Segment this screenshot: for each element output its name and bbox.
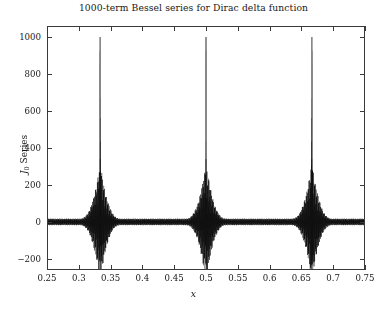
y-tick-right: [360, 74, 365, 75]
x-tick: [301, 265, 302, 270]
y-tick-right: [360, 111, 365, 112]
y-tick-right: [360, 185, 365, 186]
x-tick-top: [301, 26, 302, 31]
x-tick: [47, 265, 48, 270]
x-tick-top: [270, 26, 271, 31]
y-axis-title-symbol: J: [19, 170, 29, 174]
y-tick: [47, 259, 52, 260]
x-tick-top: [111, 26, 112, 31]
x-tick-top: [206, 26, 207, 31]
x-tick: [174, 265, 175, 270]
x-tick: [270, 265, 271, 270]
chart-title: 1000-term Bessel series for Dirac delta …: [0, 2, 387, 13]
y-tick: [47, 74, 52, 75]
y-tick-right: [360, 222, 365, 223]
y-tick-label: 800: [1, 69, 41, 79]
x-tick-top: [365, 26, 366, 31]
x-tick-top: [79, 26, 80, 31]
y-axis-title-rest: Series: [19, 135, 29, 166]
y-axis-title: J0 Series: [19, 109, 32, 199]
y-tick-right: [360, 148, 365, 149]
x-tick: [365, 265, 366, 270]
x-tick-top: [174, 26, 175, 31]
y-tick: [47, 222, 52, 223]
x-tick: [206, 265, 207, 270]
y-tick-label: −200: [1, 254, 41, 264]
y-tick: [47, 111, 52, 112]
y-tick-label: 0: [1, 217, 41, 227]
y-tick: [47, 185, 52, 186]
x-tick-top: [142, 26, 143, 31]
plot-area: [47, 26, 365, 270]
x-tick: [238, 265, 239, 270]
x-tick-top: [47, 26, 48, 31]
y-tick-right: [360, 259, 365, 260]
figure-canvas: 1000-term Bessel series for Dirac delta …: [0, 0, 387, 322]
y-tick: [47, 37, 52, 38]
x-tick: [142, 265, 143, 270]
x-tick-top: [238, 26, 239, 31]
x-tick: [333, 265, 334, 270]
x-tick-top: [333, 26, 334, 31]
x-tick: [79, 265, 80, 270]
y-axis-title-subscript: 0: [23, 166, 31, 170]
x-tick-label: 0.75: [345, 273, 385, 283]
x-axis-title: x: [0, 288, 387, 299]
x-tick: [111, 265, 112, 270]
y-tick-label: 1000: [1, 32, 41, 42]
bessel-series-plot: [48, 27, 364, 269]
y-tick-right: [360, 37, 365, 38]
y-tick: [47, 148, 52, 149]
